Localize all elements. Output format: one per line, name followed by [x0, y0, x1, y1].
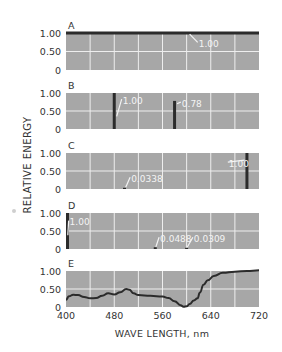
panel-b-y-tick-label: 0.50 — [40, 106, 61, 117]
panel-d-annotation-label: 0.0488 — [160, 234, 192, 244]
decorative-dot — [12, 209, 16, 213]
panel-a-y-tick-label: 0 — [55, 65, 61, 76]
panel-d-annotation-pointer — [68, 221, 69, 236]
panel-d-y-tick-label: 1.00 — [40, 208, 61, 219]
panel-d-annotation-label: 1.00 — [70, 217, 90, 227]
panel-e-y-tick-label: 1.00 — [40, 266, 61, 277]
panel-b-y-tick-label: 0 — [55, 124, 61, 135]
x-axis-title: WAVE LENGTH, nm — [115, 328, 209, 339]
panel-e-y-tick-label: 0.50 — [40, 284, 61, 295]
panel-c-label: C — [68, 140, 75, 151]
panel-d-annotation-label: 0.0309 — [194, 234, 226, 244]
panel-b-label: B — [68, 80, 75, 91]
panel-d-y-tick-label: 0 — [55, 244, 61, 255]
panel-c-y-tick-label: 0.50 — [40, 166, 61, 177]
y-axis-title: RELATIVE ENERGY — [22, 117, 33, 214]
panel-a-y-tick-label: 1.00 — [40, 28, 61, 39]
panel-c-y-tick-label: 0 — [55, 184, 61, 195]
panel-b-y-tick-label: 1.00 — [40, 88, 61, 99]
panel-d-label: D — [68, 200, 75, 211]
panel-a-annotation-label: 1.00 — [199, 39, 219, 49]
x-tick-label: 720 — [250, 310, 268, 321]
panel-a-label: A — [68, 20, 75, 31]
panel-b-annotation-label: 1.00 — [123, 96, 143, 106]
panel-d-y-tick-label: 0.50 — [40, 226, 61, 237]
x-tick-label: 400 — [57, 310, 75, 321]
panel-b-annotation-label: 0.78 — [182, 99, 202, 109]
x-tick-label: 560 — [153, 310, 171, 321]
x-tick-label: 640 — [202, 310, 220, 321]
panel-c-y-tick-label: 1.00 — [40, 148, 61, 159]
panel-c-annotation-label: 0.0338 — [131, 174, 163, 184]
panel-e-label: E — [68, 258, 74, 269]
panel-a-y-tick-label: 0.50 — [40, 46, 61, 57]
panel-c-annotation-label: 1.00 — [229, 159, 249, 169]
spectral-energy-chart: A1.000.5001.00B1.000.5001.000.78C1.000.5… — [0, 0, 282, 352]
x-tick-label: 480 — [105, 310, 123, 321]
